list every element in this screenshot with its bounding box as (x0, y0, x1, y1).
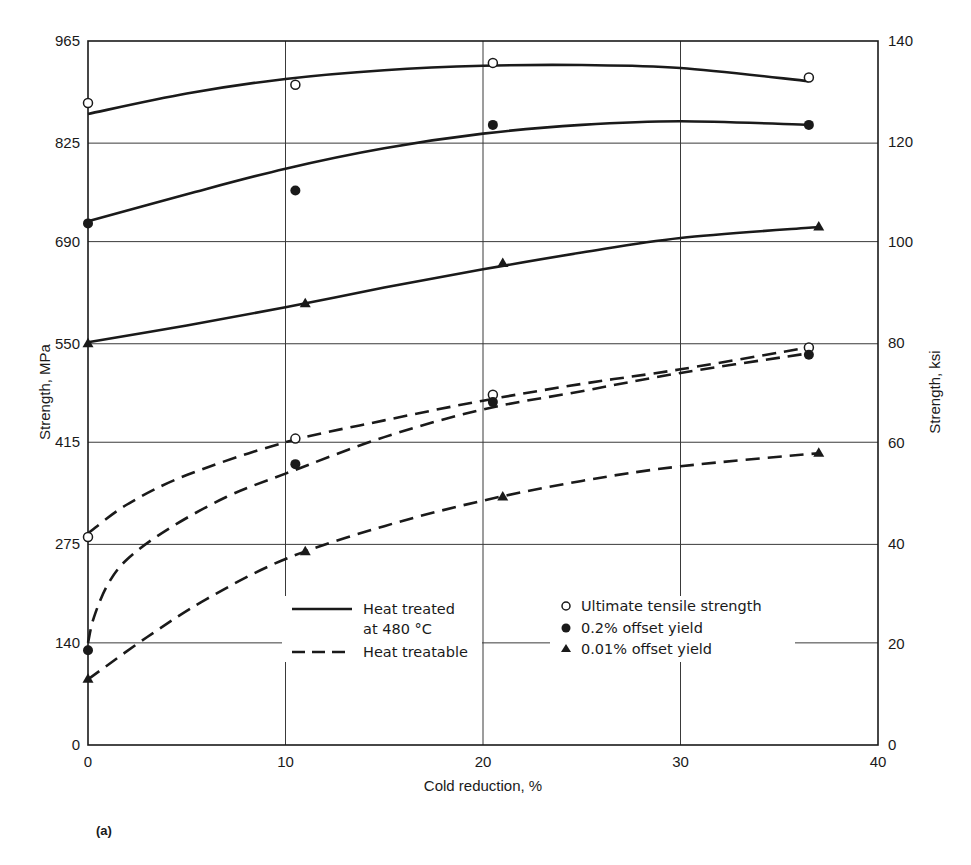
left-y-tick-label: 690 (55, 233, 80, 250)
strength-vs-cold-reduction-chart: 010203040 0140275415550690825965 0204060… (0, 0, 971, 865)
x-tick-label: 10 (277, 753, 294, 770)
open-circle-marker (291, 434, 300, 443)
heat-treatable-curve (88, 347, 809, 533)
legend-heat-treated-line1: Heat treated (363, 601, 455, 617)
right-y-tick-label: 60 (888, 434, 905, 451)
data-markers (83, 58, 825, 682)
left-y-tick-label: 965 (55, 32, 80, 49)
left-y-axis-ticks: 0140275415550690825965 (55, 32, 80, 753)
filled-triangle-marker (813, 221, 824, 231)
x-tick-label: 20 (475, 753, 492, 770)
legend-uts: Ultimate tensile strength (581, 598, 762, 614)
right-y-tick-label: 20 (888, 635, 905, 652)
filled-circle-marker (290, 186, 300, 196)
legend-02-yield: 0.2% offset yield (581, 620, 703, 636)
left-y-tick-label: 415 (55, 433, 80, 450)
legend-001-yield: 0.01% offset yield (581, 641, 712, 657)
x-tick-label: 0 (84, 753, 92, 770)
open-circle-marker (84, 533, 93, 542)
open-circle-marker (84, 99, 93, 108)
filled-triangle-marker (497, 258, 508, 268)
open-circle-marker (291, 80, 300, 89)
right-y-tick-label: 80 (888, 334, 905, 351)
heat-treated-curve (88, 65, 809, 114)
open-circle-marker (488, 58, 497, 67)
legend: Heat treated at 480 °C Heat treatable Ul… (282, 596, 795, 662)
filled-circle-marker (488, 397, 498, 407)
filled-circle-marker (83, 218, 93, 228)
fit-curves (88, 65, 819, 679)
filled-circle-marker (804, 120, 814, 130)
left-y-tick-label: 550 (55, 335, 80, 352)
x-tick-label: 40 (870, 753, 887, 770)
heat-treated-curve (88, 227, 819, 342)
filled-triangle-marker (813, 447, 824, 457)
left-y-tick-label: 825 (55, 134, 80, 151)
open-circle-icon (562, 602, 570, 610)
left-y-tick-label: 140 (55, 634, 80, 651)
x-axis-ticks: 010203040 (84, 753, 887, 770)
filled-circle-marker (290, 459, 300, 469)
right-y-axis-label: Strength, ksi (926, 350, 943, 433)
figure-caption: (a) (96, 823, 112, 838)
filled-circle-marker (804, 350, 814, 360)
right-y-tick-label: 0 (888, 736, 896, 753)
legend-heat-treatable: Heat treatable (363, 644, 468, 660)
right-y-tick-label: 100 (888, 233, 913, 250)
filled-circle-marker (83, 645, 93, 655)
x-axis-label: Cold reduction, % (424, 777, 542, 794)
left-y-tick-label: 275 (55, 535, 80, 552)
legend-heat-treated-line2: at 480 °C (363, 621, 432, 637)
filled-triangle-marker (300, 546, 311, 556)
left-y-tick-label: 0 (72, 736, 80, 753)
filled-circle-icon (562, 624, 571, 633)
heat-treated-curve (88, 121, 809, 221)
left-y-axis-label: Strength, MPa (36, 343, 53, 440)
right-y-axis-ticks: 020406080100120140 (888, 32, 913, 753)
right-y-tick-label: 140 (888, 32, 913, 49)
filled-circle-marker (488, 120, 498, 130)
open-circle-marker (804, 73, 813, 82)
right-y-tick-label: 120 (888, 133, 913, 150)
x-tick-label: 30 (672, 753, 689, 770)
right-y-tick-label: 40 (888, 535, 905, 552)
